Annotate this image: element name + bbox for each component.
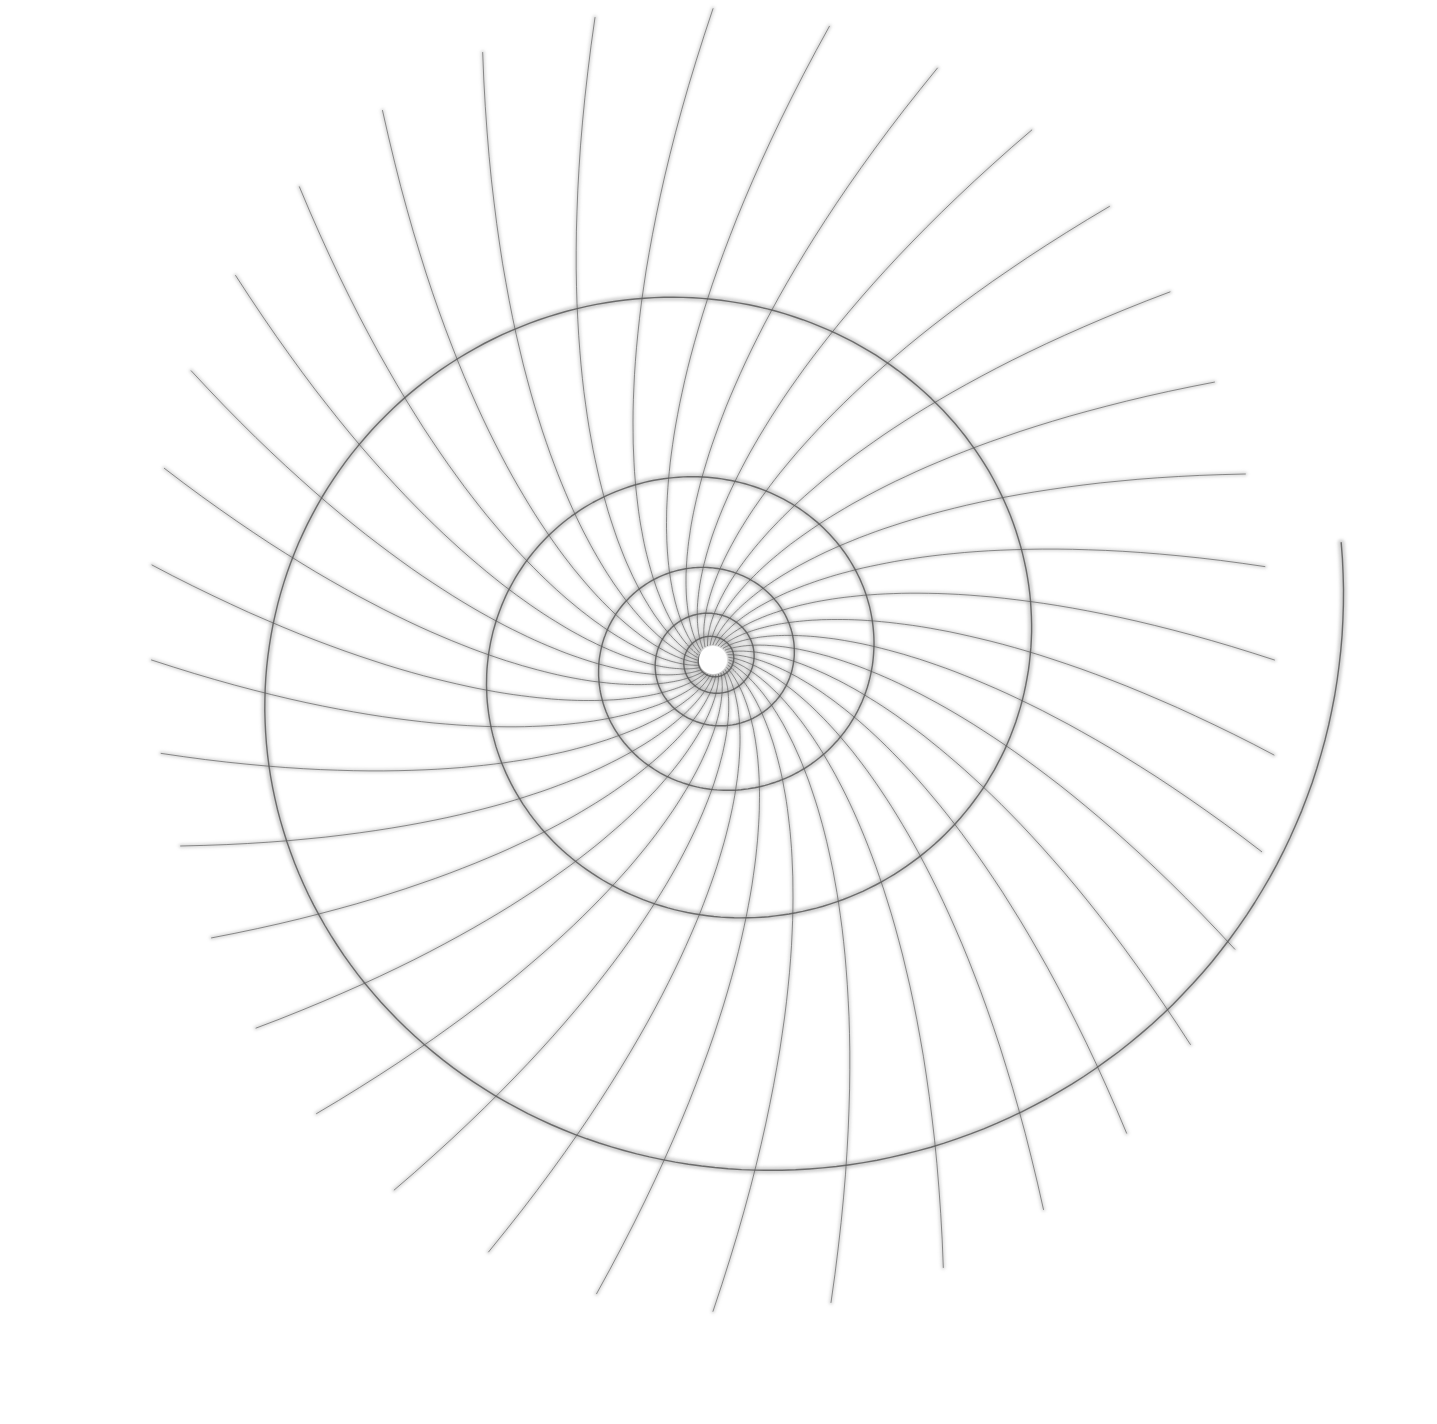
ray-line	[728, 655, 1127, 1133]
ray-halo-line	[713, 474, 1245, 645]
ray-line	[729, 660, 943, 1268]
ray-line	[181, 675, 713, 846]
ray-halo-line	[697, 130, 1032, 648]
ray-line	[697, 130, 1032, 648]
ray-halo-line	[164, 468, 702, 684]
ray-halo-line	[729, 660, 943, 1268]
ray-halo-line	[483, 53, 697, 661]
ray-halo-line	[727, 651, 1191, 1044]
center-void	[699, 646, 727, 674]
ray-halo-line	[723, 635, 1261, 851]
ray-line	[164, 468, 702, 684]
ray-line	[633, 9, 713, 655]
ray-halo-line	[728, 655, 1127, 1133]
spiral-group	[265, 297, 1344, 1170]
spiral-drawing	[0, 0, 1437, 1424]
ray-line	[723, 635, 1261, 851]
ray-halo-line	[394, 672, 729, 1190]
spiral-halo-group	[265, 297, 1344, 1170]
spiral-line	[265, 297, 1344, 1170]
ray-line	[483, 53, 697, 661]
ray-halo-line	[236, 276, 699, 669]
ray-line	[191, 371, 701, 675]
ray-halo-line	[191, 371, 701, 675]
ray-line	[236, 276, 699, 669]
ray-halo-line	[633, 9, 713, 655]
ray-halo-line	[181, 675, 713, 846]
ray-line	[713, 665, 793, 1311]
spiral-halo-line	[265, 297, 1344, 1170]
ray-halo-line	[713, 665, 793, 1311]
ray-line	[713, 474, 1245, 645]
ray-line	[394, 672, 729, 1190]
ray-line	[727, 651, 1191, 1044]
